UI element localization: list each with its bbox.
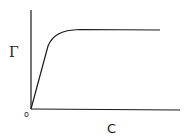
y-axis-label: Γ — [9, 44, 19, 60]
isotherm-curve — [31, 30, 160, 110]
x-axis — [31, 109, 180, 110]
x-axis-label: C — [107, 121, 116, 136]
origin-label: o — [24, 110, 29, 119]
isotherm-diagram: Γ C o — [0, 0, 189, 140]
